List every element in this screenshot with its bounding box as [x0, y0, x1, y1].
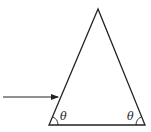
left-angle-label: θ — [60, 110, 67, 123]
triangle — [49, 9, 145, 125]
right-angle-arc — [136, 117, 142, 125]
right-angle-label: θ — [127, 110, 134, 123]
triangle-diagram: θ θ — [0, 0, 151, 132]
left-angle-arc — [53, 117, 59, 125]
